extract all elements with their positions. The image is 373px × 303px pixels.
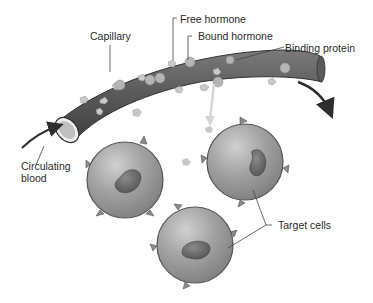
label-blood: blood (21, 172, 47, 184)
label-binding-protein: Binding protein (285, 42, 355, 54)
label-bound-hormone: Bound hormone (198, 30, 273, 42)
target-cell-left (86, 136, 163, 218)
outflow-arrow (298, 82, 330, 112)
label-capillary: Capillary (90, 30, 131, 42)
diffusion-arrow (210, 84, 214, 120)
label-circulating: Circulating (21, 160, 71, 172)
label-target-cells: Target cells (278, 219, 331, 231)
label-free-hormone: Free hormone (180, 13, 246, 25)
target-cell-right (201, 117, 289, 207)
target-cell-bottom (150, 204, 237, 289)
nucleus (250, 150, 266, 176)
inflow-arrow (22, 126, 58, 148)
